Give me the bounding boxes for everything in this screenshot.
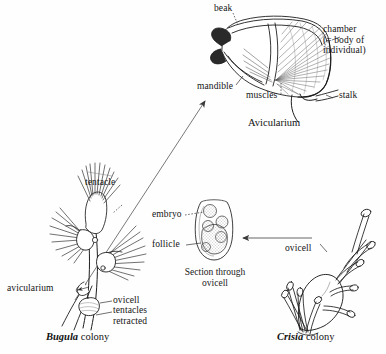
leader-ovicell-bugula bbox=[100, 301, 112, 303]
caption-ovicell-section-line2: ovicell bbox=[202, 278, 228, 288]
label-beak: beak bbox=[214, 3, 232, 14]
label-mandible: mandible bbox=[197, 81, 233, 92]
leader-tentacle bbox=[113, 205, 122, 213]
label-chamber-line3: individual) bbox=[323, 45, 366, 55]
caption-crisia: Crisia colony bbox=[277, 331, 334, 342]
label-follicle: follicle bbox=[152, 239, 180, 250]
label-stalk: stalk bbox=[339, 90, 357, 101]
leader-ovicell-crisia bbox=[320, 244, 327, 252]
crisia-drawing bbox=[280, 208, 376, 335]
caption-crisia-species: Crisia bbox=[277, 331, 303, 342]
caption-bugula-rest: colony bbox=[78, 331, 109, 342]
caption-bugula: Bugula colony bbox=[46, 331, 109, 342]
ovicell-section-drawing bbox=[195, 200, 233, 260]
avicularium-drawing bbox=[211, 16, 338, 122]
leader-tentacles-retracted bbox=[96, 312, 112, 315]
caption-crisia-rest: colony bbox=[303, 331, 334, 342]
label-muscles: muscles bbox=[246, 90, 277, 101]
label-chamber: chamber (= body of individual) bbox=[323, 24, 385, 56]
caption-ovicell-section: Section through ovicell bbox=[163, 267, 267, 289]
caption-bugula-species: Bugula bbox=[46, 331, 78, 342]
leader-stalk bbox=[326, 95, 333, 98]
label-avicularium-bugula: avicularium bbox=[7, 283, 53, 294]
label-embryo: embryo bbox=[152, 209, 182, 220]
label-tentacle: tentacle bbox=[85, 177, 115, 188]
label-tentacles-retracted-line2: retracted bbox=[113, 316, 147, 326]
label-ovicell-crisia: ovicell bbox=[285, 243, 312, 254]
caption-avicularium: Avicularium bbox=[248, 117, 300, 128]
label-tentacles-retracted: tentacles retracted bbox=[113, 305, 169, 326]
label-chamber-line2: (= body of bbox=[323, 35, 364, 45]
caption-ovicell-section-line1: Section through bbox=[185, 267, 245, 277]
label-tentacles-retracted-line1: tentacles bbox=[113, 305, 147, 315]
leader-mandible bbox=[236, 76, 243, 85]
label-chamber-line1: chamber bbox=[323, 24, 356, 34]
